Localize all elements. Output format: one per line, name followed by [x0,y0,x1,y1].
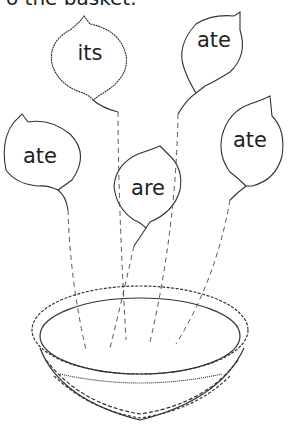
leaf-stem-icon [93,100,118,112]
leaf-word: are [118,176,178,200]
leaf-word: ate [184,28,244,52]
worksheet-drawing [0,0,294,424]
basket-icon [32,286,248,420]
leaf-word: ate [10,144,70,168]
leaf-word: ate [220,128,280,152]
leaf-stem-icon [178,93,196,114]
leaf-word: its [60,41,120,65]
leaf-stem-icon [134,228,146,246]
leaf-stem-icon [230,186,246,200]
leaf-stem-icon [58,190,68,210]
leaf-icon [182,12,243,93]
